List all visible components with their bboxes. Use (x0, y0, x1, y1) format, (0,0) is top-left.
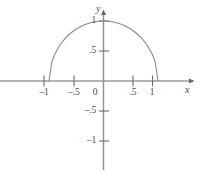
x-tick-label-neg-point-5: –.5 (68, 88, 79, 98)
x-axis (0, 78, 195, 83)
x-tick-label-1: 1 (150, 88, 155, 98)
y-tick-label-neg-point-5: –.5 (72, 106, 96, 116)
y-tick-label-neg-1: –1 (74, 136, 96, 146)
y-tick-label-1: 1 (82, 16, 96, 26)
y-axis-label: y (96, 4, 100, 14)
x-tick-label-point-5: .5 (130, 88, 137, 98)
y-tick-label-point-5: .5 (76, 46, 96, 56)
x-tick-label-zero: 0 (93, 88, 98, 98)
x-tick-label-neg-1: –1 (39, 88, 48, 98)
x-axis-label: x (185, 85, 189, 95)
plot-canvas (0, 0, 211, 174)
x-axis-arrowhead (189, 78, 195, 83)
y-axis (101, 10, 106, 171)
semicircle-graph-figure: –1 –.5 0 .5 1 1 .5 –.5 –1 y x (0, 0, 211, 174)
y-axis-arrowhead (101, 10, 106, 16)
